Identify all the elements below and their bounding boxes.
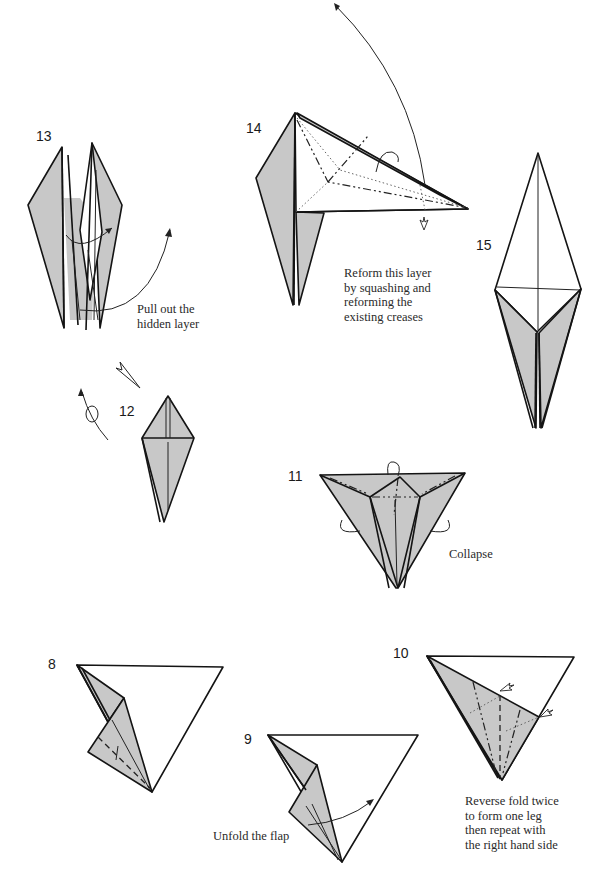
origami-diagram-page: 13 Pull out the hidden layer 14 R (0, 0, 604, 889)
step-10-caption: Reverse fold twice to form one leg then … (465, 794, 559, 852)
step-10-figure (0, 0, 604, 889)
